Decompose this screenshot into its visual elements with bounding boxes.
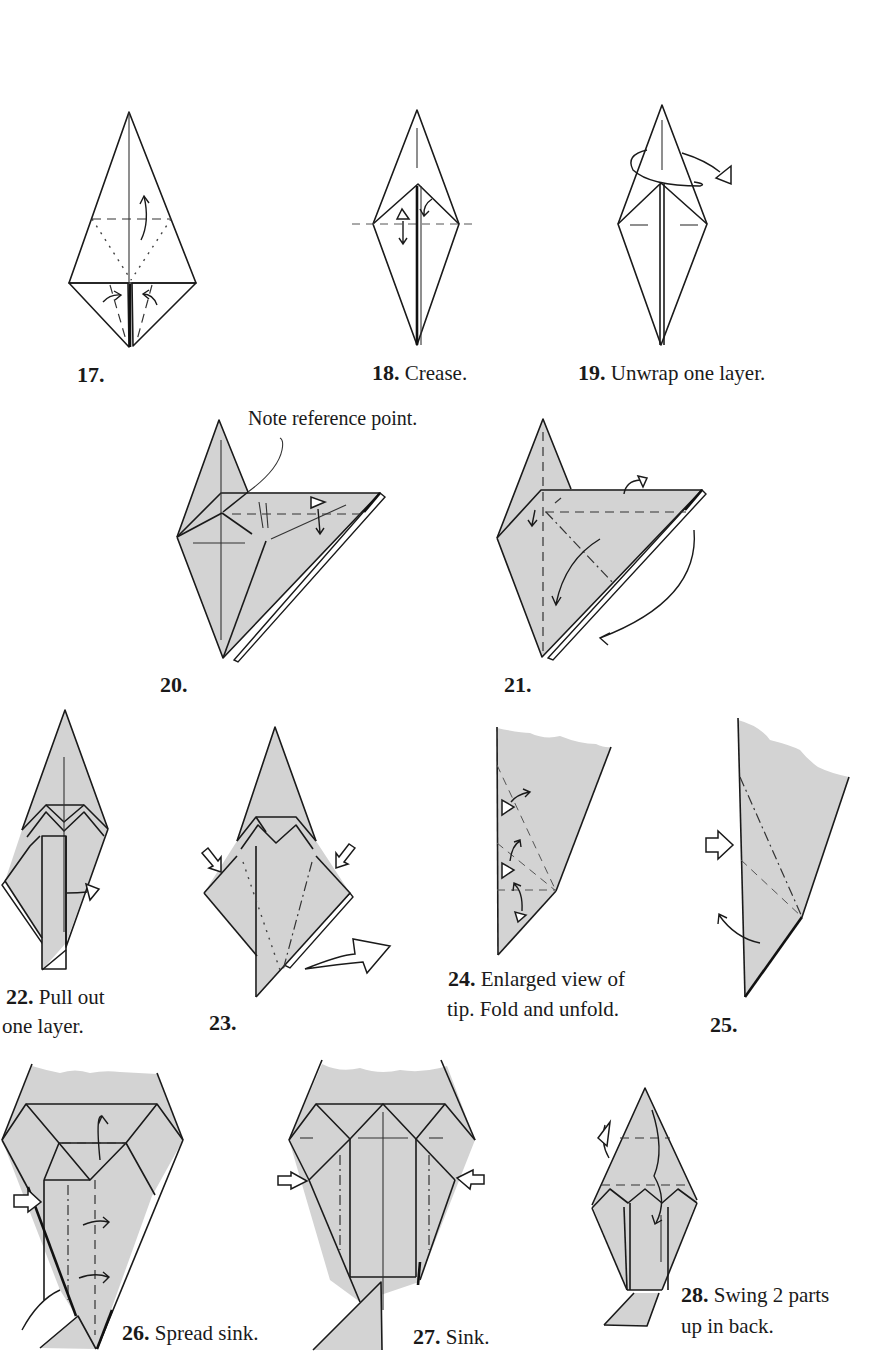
step-26-diagram	[2, 1064, 183, 1349]
hollow-arrow-icon	[716, 166, 731, 184]
step-18-diagram	[352, 110, 476, 345]
step-text: one layer.	[2, 1014, 84, 1038]
step-number: 24.	[448, 966, 476, 991]
step-20-caption: 20.	[160, 670, 188, 700]
step-number: 22.	[6, 984, 34, 1009]
step-number: 25.	[710, 1012, 738, 1037]
step-19-caption: 19. Unwrap one layer.	[578, 358, 765, 388]
step-text: Swing 2 parts	[714, 1283, 830, 1307]
step-19-diagram	[618, 105, 731, 345]
step-number: 17.	[77, 362, 105, 387]
step-27-caption: 27. Sink.	[413, 1322, 490, 1351]
pull-arrow-icon	[305, 939, 390, 973]
reference-point-note: Note reference point.	[248, 407, 417, 430]
step-24-caption: 24. Enlarged view of	[448, 964, 625, 994]
step-22-caption: 22. Pull out	[6, 982, 105, 1012]
step-21-caption: 21.	[504, 670, 532, 700]
diagrams-canvas	[0, 0, 883, 1351]
step-number: 21.	[504, 672, 532, 697]
step-24-diagram	[497, 727, 611, 955]
step-25-diagram	[706, 718, 849, 997]
step-23-caption: 23.	[209, 1008, 237, 1038]
push-arrow-icon	[202, 848, 221, 872]
step-28-caption: 28. Swing 2 parts	[681, 1280, 829, 1310]
step-17-diagram	[69, 112, 196, 347]
fold-arrow-icon	[22, 1290, 60, 1330]
step-22-diagram	[2, 710, 108, 970]
step-21-diagram	[497, 419, 706, 660]
step-text: Spread sink.	[155, 1321, 259, 1345]
step-26-caption: 26. Spread sink.	[122, 1318, 259, 1348]
step-17-caption: 17.	[77, 360, 105, 390]
instruction-page: 17. 18. Crease. 19. Unwrap one layer. No…	[0, 0, 883, 1351]
step-text: Unwrap one layer.	[611, 361, 766, 385]
step-number: 27.	[413, 1324, 441, 1349]
step-25-caption: 25.	[710, 1010, 738, 1040]
step-text: up in back.	[681, 1314, 774, 1338]
step-28-caption-line2: up in back.	[681, 1311, 774, 1341]
fold-arrow-icon	[103, 295, 121, 302]
step-number: 19.	[578, 360, 606, 385]
step-text: tip. Fold and unfold.	[447, 997, 619, 1021]
step-text: Enlarged view of	[481, 967, 625, 991]
step-text: Pull out	[39, 985, 105, 1009]
step-number: 23.	[209, 1010, 237, 1035]
step-number: 26.	[122, 1320, 150, 1345]
push-arrow-icon	[336, 844, 355, 868]
unfold-arrow-icon	[397, 209, 409, 219]
step-24-caption-line2: tip. Fold and unfold.	[447, 994, 619, 1024]
fold-arrow-icon	[141, 196, 146, 240]
step-text: Crease.	[405, 361, 467, 385]
step-23-diagram	[202, 727, 390, 997]
fold-arrow-icon	[420, 199, 432, 216]
step-22-caption-line2: one layer.	[2, 1011, 84, 1041]
step-text: Sink.	[446, 1325, 490, 1349]
step-number: 20.	[160, 672, 188, 697]
unwrap-arrow-icon	[631, 150, 703, 186]
push-arrow-icon	[706, 831, 733, 859]
step-20-diagram	[177, 420, 385, 662]
step-number: 18.	[372, 360, 400, 385]
step-27-diagram	[278, 1060, 484, 1350]
step-number: 28.	[681, 1282, 709, 1307]
step-18-caption: 18. Crease.	[372, 358, 467, 388]
